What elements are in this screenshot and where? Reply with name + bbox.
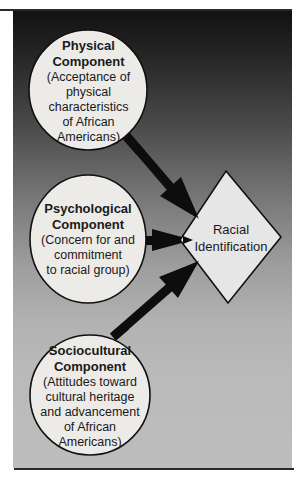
bottom-rule	[14, 468, 294, 470]
node-psychological-title-2: Component	[52, 217, 124, 233]
node-psychological: Psychological Component (Concern for and…	[28, 180, 148, 298]
node-sociocultural-title-2: Component	[54, 359, 126, 375]
node-sociocultural-title-1: Sociocultural	[49, 343, 131, 359]
node-physical: Physical Component (Acceptance of physic…	[29, 32, 148, 150]
target-label: Racial Identification	[184, 221, 278, 255]
node-sociocultural-description: (Attitudes toward cultural heritage and …	[40, 375, 139, 450]
node-physical-title-2: Component	[52, 54, 124, 70]
node-sociocultural: Sociocultural Component (Attitudes towar…	[28, 340, 152, 452]
node-psychological-title-1: Psychological	[44, 201, 131, 217]
node-physical-title-1: Physical	[62, 38, 115, 54]
node-psychological-description: (Concern for and commitment to racial gr…	[41, 233, 135, 278]
node-physical-description: (Acceptance of physical characteristics …	[47, 70, 130, 145]
